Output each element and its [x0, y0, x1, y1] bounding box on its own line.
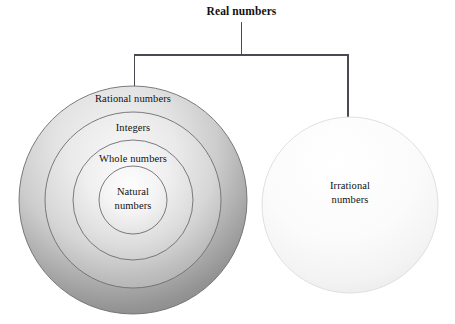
irrational-numbers-group: [262, 117, 438, 293]
irrational-numbers-label-line1: Irrational: [330, 180, 370, 191]
natural-numbers-label-line2: numbers: [115, 200, 152, 211]
venn-diagram-svg: Real numbers Rational numbers Integers W…: [0, 0, 455, 324]
rational-numbers-label: Rational numbers: [95, 93, 171, 104]
natural-numbers-label-line1: Natural: [117, 186, 149, 197]
irrational-numbers-label-line2: numbers: [332, 194, 369, 205]
irrational-numbers-circle: [262, 117, 438, 293]
diagram-title: Real numbers: [207, 5, 277, 17]
whole-numbers-label: Whole numbers: [99, 153, 167, 164]
integers-label: Integers: [116, 122, 151, 133]
venn-diagram-canvas: Real numbers Rational numbers Integers W…: [0, 0, 455, 324]
